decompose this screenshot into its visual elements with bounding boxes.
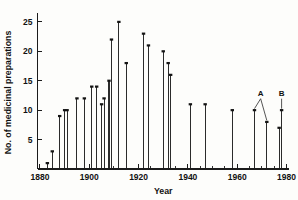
stem-bar <box>203 103 206 169</box>
chart-figure: 510152025 188019001920194019601980 AB No… <box>0 0 298 200</box>
stem-bar <box>189 103 192 169</box>
y-axis-ticks <box>38 22 42 140</box>
annotation-label: A <box>258 89 264 98</box>
stem-bar <box>280 109 283 169</box>
y-axis-title: No. of medicinal preparations <box>3 31 13 155</box>
stem-bar <box>265 121 268 169</box>
annotation-a: A <box>254 89 266 120</box>
stem-bar <box>102 97 105 169</box>
x-tick-label: 1880 <box>31 172 50 182</box>
stem-bar <box>95 86 98 169</box>
stem-bar <box>46 162 49 169</box>
stem-bar <box>125 62 128 169</box>
x-tick-label: 1940 <box>178 172 197 182</box>
x-axis-title: Year <box>154 186 173 196</box>
stem-bar <box>65 109 68 169</box>
stem-bar <box>142 33 145 169</box>
stem-bar <box>253 109 256 169</box>
y-tick-label: 15 <box>23 76 33 86</box>
y-axis-tick-labels: 510152025 <box>23 17 33 145</box>
y-tick-label: 5 <box>28 135 33 145</box>
stem-bar <box>63 109 66 169</box>
stem-bar <box>51 150 54 169</box>
stem-bar <box>83 97 86 169</box>
stem-bar <box>231 109 234 169</box>
y-tick-label: 20 <box>23 46 33 56</box>
stem-bar <box>277 127 280 169</box>
stem-bar <box>58 115 61 169</box>
y-tick-label: 25 <box>23 17 33 27</box>
stem-bar <box>90 86 93 169</box>
stem-bar <box>117 21 120 169</box>
chart-annotations: AB <box>254 89 284 120</box>
stem-bar <box>169 74 172 169</box>
x-tick-label: 1960 <box>228 172 247 182</box>
stem-bar <box>107 80 110 169</box>
x-tick-label: 1980 <box>277 172 296 182</box>
y-tick-label: 10 <box>23 105 33 115</box>
medicinal-preparations-stem-chart: 510152025 188019001920194019601980 AB No… <box>0 0 298 200</box>
stem-bar <box>166 62 169 169</box>
x-tick-label: 1920 <box>129 172 148 182</box>
stem-bar <box>147 44 150 169</box>
stem-bar <box>110 38 113 169</box>
annotation-b: B <box>279 89 285 108</box>
annotation-label: B <box>279 89 285 98</box>
stem-bar <box>100 103 103 169</box>
stem-bar <box>75 97 78 169</box>
stem-bar <box>162 50 165 169</box>
x-axis-tick-labels: 188019001920194019601980 <box>31 172 297 182</box>
stem-bars <box>46 21 284 169</box>
x-tick-label: 1900 <box>80 172 99 182</box>
